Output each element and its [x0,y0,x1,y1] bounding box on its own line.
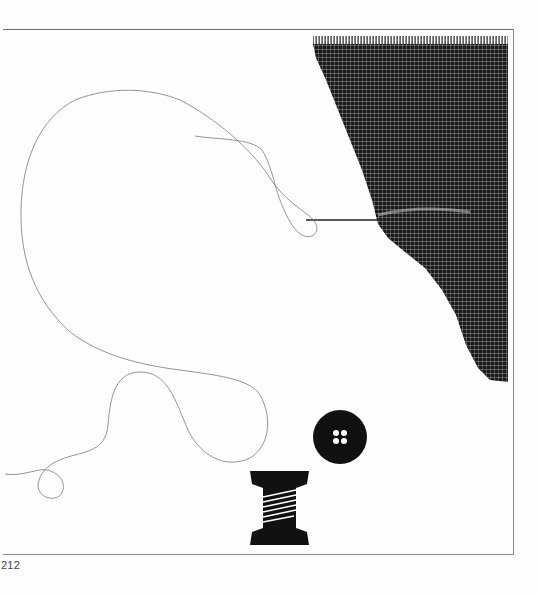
spool-of-thread [250,471,309,545]
page: 212 [0,0,540,595]
button-hole [333,438,339,444]
fabric-body [313,44,508,382]
button-hole [341,430,347,436]
button [313,410,367,464]
page-number: 212 [1,559,20,571]
fabric-swatch [313,36,508,382]
button-hole [341,438,347,444]
button-hole [333,430,339,436]
illustration [0,0,540,595]
thread [5,90,317,498]
